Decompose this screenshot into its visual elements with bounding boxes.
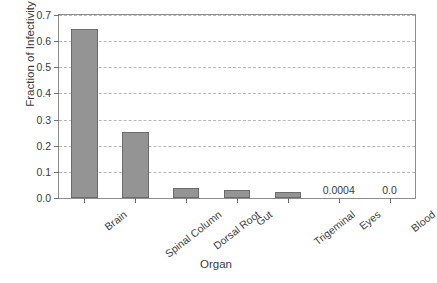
value-annotations-layer: 0.00040.0 [59, 15, 415, 198]
x-axis-tick [186, 198, 187, 203]
y-axis-tick [54, 198, 59, 199]
x-axis-tick [84, 198, 85, 203]
y-axis-tick-label: 0.2 [36, 140, 51, 152]
plot-area: 0.00.10.20.30.40.50.60.7 0.00040.0 [58, 14, 416, 199]
x-axis-tick [237, 198, 238, 203]
bar-value-label: 0.0 [382, 184, 397, 196]
x-axis-title: Organ [0, 258, 432, 270]
bar-value-label: 0.0004 [323, 184, 355, 196]
x-axis-tick [339, 198, 340, 203]
y-axis-tick-label: 0.3 [36, 114, 51, 126]
x-axis-category-label: Eyes [357, 208, 383, 232]
x-axis-category-label: Blood [408, 208, 437, 234]
y-axis-tick-label: 0.0 [36, 192, 51, 204]
x-axis-tick [390, 198, 391, 203]
y-axis-tick-label: 0.5 [36, 61, 51, 73]
x-axis-category-label: Trigeminal [311, 208, 357, 247]
x-axis-tick [288, 198, 289, 203]
x-axis-tick [135, 198, 136, 203]
y-axis-tick-label: 0.6 [36, 35, 51, 47]
x-axis-category-label: Spinal Column [163, 208, 224, 260]
x-axis-category-label: Brain [103, 208, 130, 233]
y-axis-tick-label: 0.4 [36, 87, 51, 99]
y-axis-tick-label: 0.7 [36, 9, 51, 21]
y-axis-tick-label: 0.1 [36, 166, 51, 178]
